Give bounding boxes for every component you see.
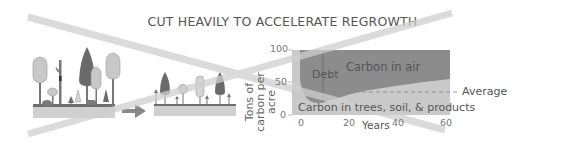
average-label: Average: [462, 85, 507, 98]
mature-forest-illustration: [33, 47, 120, 118]
x-tick-60: 60: [440, 117, 452, 128]
x-tick-0: 0: [298, 117, 304, 128]
x-axis-label: Years: [362, 119, 390, 131]
x-tick-40: 40: [392, 117, 404, 128]
debt-label: Debt: [312, 68, 339, 81]
carbon-in-trees-label: Carbon in trees, soil, & products: [298, 101, 475, 114]
y-tick-0: 0: [280, 109, 286, 120]
y-tick-100: 100: [270, 43, 288, 54]
y-tick-50: 50: [275, 76, 287, 87]
x-tick-20: 20: [343, 117, 355, 128]
carbon-in-air-label: Carbon in air: [346, 60, 420, 74]
y-axis-label: Tons of carbon per acre: [244, 72, 277, 132]
